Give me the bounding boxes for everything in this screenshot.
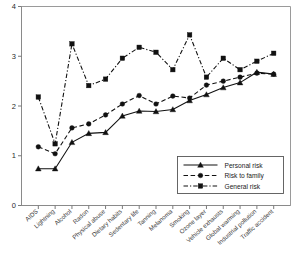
- data-point: [53, 142, 58, 147]
- data-point: [171, 67, 176, 72]
- data-point: [255, 71, 260, 76]
- data-point: [70, 126, 75, 131]
- data-point: [271, 51, 276, 56]
- legend-entry-label: General risk: [225, 183, 261, 190]
- data-point: [86, 122, 91, 127]
- data-point: [87, 83, 92, 88]
- data-point: [36, 95, 41, 100]
- x-axis-category-labels: AIDSLightningAlcoholRadonPhysical abuseD…: [24, 207, 275, 246]
- data-point: [221, 56, 226, 61]
- data-point: [238, 75, 243, 80]
- data-point: [69, 139, 75, 144]
- y-tick-label: 2: [12, 102, 16, 111]
- legend-marker-sample: [198, 173, 203, 178]
- data-series-personal-risk: [35, 69, 276, 171]
- data-series-group: [35, 33, 276, 171]
- data-point: [238, 67, 243, 72]
- data-point: [53, 151, 58, 156]
- data-point: [255, 59, 260, 64]
- data-point: [154, 102, 159, 107]
- data-point: [237, 80, 243, 85]
- legend-entry-label: Risk to family: [225, 172, 265, 180]
- x-category-label: Alcohol: [53, 208, 73, 227]
- y-axis-tick-labels: 01234: [12, 2, 16, 210]
- data-point: [137, 93, 142, 98]
- x-axis-ticks: [38, 206, 273, 210]
- data-point: [137, 45, 142, 50]
- data-point: [187, 33, 192, 38]
- legend-entry-label: Personal risk: [225, 162, 264, 169]
- data-point: [36, 144, 41, 149]
- y-tick-label: 3: [12, 52, 16, 61]
- data-point: [204, 75, 209, 80]
- data-point: [170, 94, 175, 99]
- y-axis-ticks: [18, 7, 22, 206]
- data-point: [120, 102, 125, 107]
- data-point: [187, 96, 192, 101]
- data-point: [120, 56, 125, 61]
- series-line: [38, 72, 273, 169]
- data-point: [221, 79, 226, 84]
- chart-canvas: 01234 AIDSLightningAlcoholRadonPhysical …: [0, 0, 299, 259]
- data-point: [103, 113, 108, 118]
- legend-marker-sample: [198, 184, 203, 189]
- data-point: [103, 77, 108, 82]
- chart-legend: Personal riskRisk to familyGeneral risk: [178, 157, 284, 194]
- y-tick-label: 0: [12, 201, 16, 210]
- data-point: [70, 42, 75, 47]
- data-point: [271, 72, 276, 77]
- y-tick-label: 1: [12, 151, 16, 160]
- y-tick-label: 4: [12, 2, 16, 11]
- risk-perception-line-chart: 01234 AIDSLightningAlcoholRadonPhysical …: [0, 0, 299, 259]
- data-point: [204, 83, 209, 88]
- data-point: [154, 50, 159, 55]
